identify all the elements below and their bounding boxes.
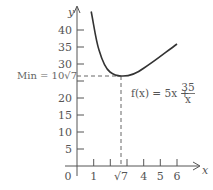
- y-ticks: [77, 30, 84, 149]
- svg-text:5: 5: [157, 170, 164, 183]
- svg-text:20: 20: [58, 92, 72, 105]
- y-axis-label: y: [67, 6, 75, 19]
- svg-text:√7: √7: [114, 170, 128, 183]
- svg-text:10: 10: [58, 126, 72, 139]
- svg-text:5: 5: [65, 143, 72, 156]
- svg-text:6: 6: [174, 170, 181, 183]
- minimum-guides: [77, 76, 121, 166]
- x-axis-label: x: [202, 164, 209, 177]
- svg-text:0: 0: [65, 170, 72, 183]
- svg-text:1: 1: [90, 170, 97, 183]
- minimum-label: Min = 10√7: [17, 70, 77, 81]
- chart: 5 10 15 20 30 35 40 0 1 √7 4 5 6 y x Min…: [0, 0, 213, 190]
- svg-text:35: 35: [58, 41, 72, 54]
- svg-text:35: 35: [181, 81, 194, 93]
- svg-text:40: 40: [58, 24, 72, 37]
- function-curve: [91, 12, 177, 77]
- svg-text:x: x: [185, 93, 191, 105]
- svg-text:15: 15: [58, 109, 72, 122]
- function-label: f(x) = 5x + 35 x: [131, 81, 195, 105]
- y-tick-labels: 5 10 15 20 30 35 40: [58, 24, 72, 156]
- svg-text:4: 4: [140, 170, 147, 183]
- x-ticks: [94, 159, 177, 166]
- x-tick-labels: 0 1 √7 4 5 6: [65, 170, 181, 183]
